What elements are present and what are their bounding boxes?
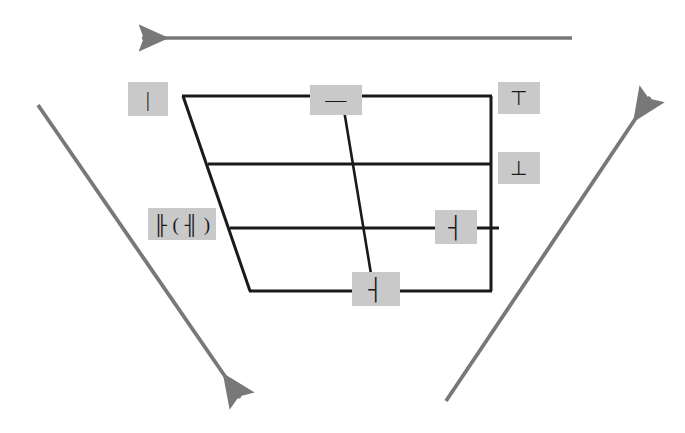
trapezoid-left-edge [183, 96, 250, 291]
label-top-left-text: | [146, 89, 151, 110]
label-right-mid-text: ┤ [448, 217, 463, 238]
label-left-middle: ╟ ( ╢ ) [148, 208, 216, 240]
label-right-upper: ⊥ [498, 152, 540, 184]
label-right-mid: ┤ [435, 210, 477, 244]
left-diagonal-arrow [38, 105, 240, 398]
label-top-middle: — [310, 85, 362, 115]
figure-svg [0, 0, 685, 433]
label-top-right-text: ⊤ [510, 88, 528, 108]
inner-diagonal-line [343, 104, 373, 286]
label-top-right: ⊤ [498, 82, 540, 114]
right-diagonal-arrow [446, 97, 650, 401]
diagram-canvas: | — ⊤ ⊥ ╟ ( ╢ ) ┤ ┤ [0, 0, 685, 433]
label-bottom-text: ┤ [368, 279, 383, 300]
label-left-middle-text: ╟ ( ╢ ) [153, 215, 210, 234]
label-top-left: | [128, 82, 168, 116]
label-bottom: ┤ [352, 272, 400, 306]
label-top-middle-text: — [325, 90, 347, 111]
label-right-upper-text: ⊥ [510, 158, 528, 178]
